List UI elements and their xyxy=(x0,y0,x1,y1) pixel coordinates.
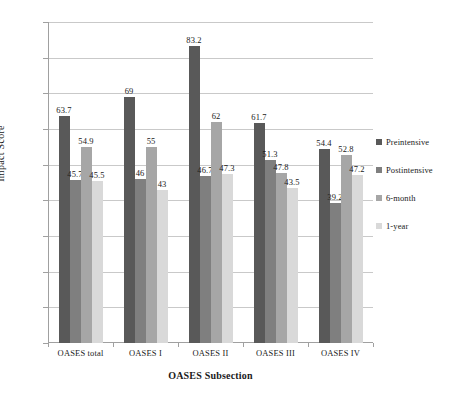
bar[interactable] xyxy=(276,173,287,343)
legend-item[interactable]: Postintensive xyxy=(376,156,450,184)
bar[interactable] xyxy=(341,155,352,343)
bar-column[interactable]: 54.4 xyxy=(319,22,330,343)
legend-swatch-icon xyxy=(376,223,382,229)
x-tick-mark xyxy=(113,343,114,347)
bar[interactable] xyxy=(157,190,168,343)
bar-value-label: 62 xyxy=(212,112,221,121)
x-tick-mark xyxy=(308,343,309,347)
legend-label: Postintensive xyxy=(386,165,433,175)
x-category-label: OASES II xyxy=(178,348,243,358)
bar-group: 54.439.252.847.2 xyxy=(308,22,373,343)
x-category-label: OASES total xyxy=(48,348,113,358)
y-axis-title: Impact Score xyxy=(0,125,6,182)
bar-column[interactable]: 39.2 xyxy=(330,22,341,343)
bar-group: 83.246.76247.3 xyxy=(178,22,243,343)
bar-column[interactable]: 83.2 xyxy=(189,22,200,343)
bar[interactable] xyxy=(59,116,70,343)
bar-column[interactable]: 47.2 xyxy=(352,22,363,343)
bar[interactable] xyxy=(211,122,222,343)
legend: PreintensivePostintensive6-month1-year xyxy=(376,128,450,240)
bar-column[interactable]: 51.3 xyxy=(265,22,276,343)
bar-chart: Impact Score 0102030405060708090 63.745.… xyxy=(0,0,450,396)
bar-column[interactable]: 47.3 xyxy=(222,22,233,343)
bar[interactable] xyxy=(189,46,200,343)
bar-column[interactable]: 61.7 xyxy=(254,22,265,343)
x-category-label: OASES IV xyxy=(308,348,373,358)
bar[interactable] xyxy=(330,203,341,343)
legend-item[interactable]: 1-year xyxy=(376,212,450,240)
bar[interactable] xyxy=(352,175,363,343)
bar[interactable] xyxy=(200,176,211,343)
bar-column[interactable]: 54.9 xyxy=(81,22,92,343)
bar[interactable] xyxy=(124,97,135,343)
bar-column[interactable]: 46 xyxy=(135,22,146,343)
x-category-label: OASES III xyxy=(243,348,308,358)
x-axis-category-labels: OASES totalOASES IOASES IIOASES IIIOASES… xyxy=(48,348,373,358)
bar-value-label: 45.5 xyxy=(89,171,104,180)
bar[interactable] xyxy=(265,160,276,343)
bar[interactable] xyxy=(92,181,103,343)
bar-group: 63.745.754.945.5 xyxy=(48,22,113,343)
bar-column[interactable]: 69 xyxy=(124,22,135,343)
bar-value-label: 47.2 xyxy=(349,165,364,174)
x-tick-mark xyxy=(178,343,179,347)
legend-swatch-icon xyxy=(376,167,382,173)
legend-label: 6-month xyxy=(386,193,416,203)
legend-item[interactable]: 6-month xyxy=(376,184,450,212)
bar-column[interactable]: 63.7 xyxy=(59,22,70,343)
x-tick-mark xyxy=(243,343,244,347)
bar-value-label: 43.5 xyxy=(284,178,299,187)
legend-label: Preintensive xyxy=(386,137,429,147)
bar-value-label: 69 xyxy=(125,87,134,96)
bar-value-label: 55 xyxy=(147,137,156,146)
bar-value-label: 43 xyxy=(158,180,167,189)
bar-column[interactable]: 46.7 xyxy=(200,22,211,343)
bar-group: 69465543 xyxy=(113,22,178,343)
bar[interactable] xyxy=(287,188,298,343)
bar-column[interactable]: 45.5 xyxy=(92,22,103,343)
bar[interactable] xyxy=(146,147,157,343)
legend-label: 1-year xyxy=(386,221,408,231)
bar-column[interactable]: 45.7 xyxy=(70,22,81,343)
bar[interactable] xyxy=(135,179,146,343)
x-tick-mark xyxy=(48,343,49,347)
bar-group: 61.751.347.843.5 xyxy=(243,22,308,343)
bar-column[interactable]: 55 xyxy=(146,22,157,343)
bar[interactable] xyxy=(70,180,81,343)
bar-column[interactable]: 52.8 xyxy=(341,22,352,343)
bar[interactable] xyxy=(319,149,330,343)
x-category-label: OASES I xyxy=(113,348,178,358)
legend-swatch-icon xyxy=(376,195,382,201)
bar-groups: 63.745.754.945.56946554383.246.76247.361… xyxy=(48,22,373,343)
x-tick-mark xyxy=(373,343,374,347)
bar-value-label: 46 xyxy=(136,169,145,178)
legend-item[interactable]: Preintensive xyxy=(376,128,450,156)
bar-column[interactable]: 43 xyxy=(157,22,168,343)
bar[interactable] xyxy=(222,174,233,343)
x-axis-title: OASES Subsection xyxy=(48,370,373,381)
bar-column[interactable]: 62 xyxy=(211,22,222,343)
bar-value-label: 47.3 xyxy=(219,164,234,173)
legend-swatch-icon xyxy=(376,139,382,145)
bar-column[interactable]: 43.5 xyxy=(287,22,298,343)
